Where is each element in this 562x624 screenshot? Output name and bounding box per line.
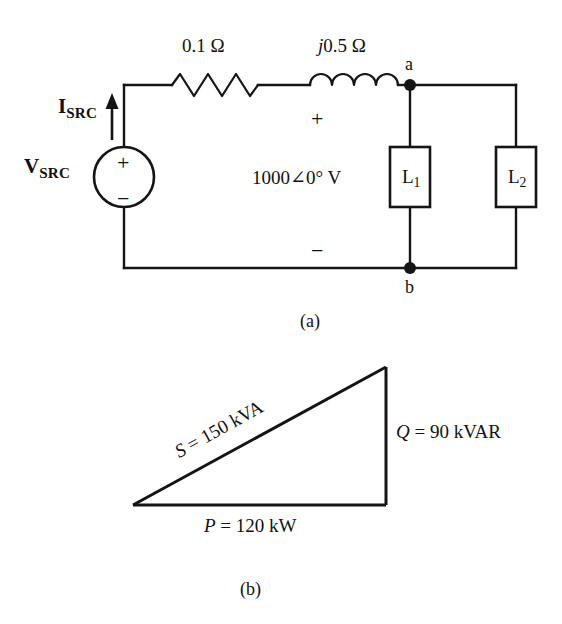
branch-plus-sign: + [311, 108, 323, 130]
current-label-sub: SRC [66, 105, 97, 121]
current-arrow-head [106, 93, 119, 109]
caption-panel-a: (a) [300, 312, 320, 330]
reactive-power-label: Q = 90 kVAR [396, 422, 501, 441]
current-source-label: ISRC [58, 96, 97, 121]
inductor-symbol [310, 74, 398, 85]
branch-minus-sign: − [311, 240, 323, 262]
load-1-label-main: L [402, 166, 414, 187]
load-1-label: L1 [402, 167, 421, 190]
triangle-hypotenuse-edge [133, 367, 386, 505]
voltage-label-main: V [24, 154, 39, 178]
resistor-value-label: 0.1 Ω [182, 36, 225, 55]
load-1-label-sub: 1 [414, 175, 421, 190]
inductor-value-label: j0.5 Ω [318, 36, 366, 55]
branch-voltage-value: 1000∠0° V [252, 168, 341, 187]
node-a-label: a [405, 55, 413, 73]
inductor-value-text: 0.5 Ω [323, 35, 366, 56]
caption-panel-b: (b) [240, 580, 261, 598]
load-2-label-sub: 2 [520, 175, 527, 190]
reactive-power-value: = 90 kVAR [410, 421, 501, 442]
voltage-label-sub: SRC [39, 165, 70, 181]
resistor-symbol [172, 74, 258, 96]
node-b-label: b [405, 278, 414, 296]
source-minus-sign: − [117, 188, 129, 210]
load-2-label: L2 [508, 167, 527, 190]
real-power-label: P = 120 kW [204, 516, 297, 535]
real-power-value: = 120 kW [216, 515, 297, 536]
reactive-power-symbol: Q [396, 421, 410, 442]
current-label-main: I [58, 94, 66, 118]
node-a-dot [404, 79, 416, 91]
real-power-symbol: P [204, 515, 216, 536]
load-2-label-main: L [508, 166, 520, 187]
node-b-dot [404, 262, 416, 274]
source-plus-sign: + [117, 152, 129, 174]
figure-root: 0.1 Ω j0.5 Ω a b ISRC VSRC + − + − 1000∠… [0, 0, 562, 624]
voltage-source-label: VSRC [24, 156, 70, 181]
